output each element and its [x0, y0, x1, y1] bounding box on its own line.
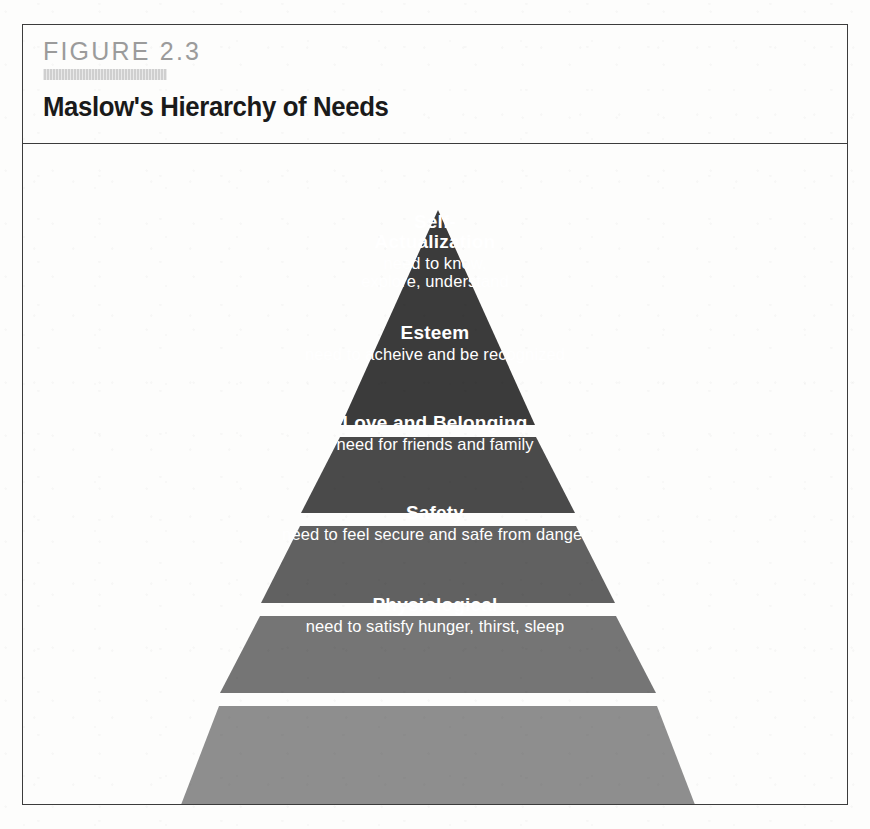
pyramid-tier-esteem — [301, 437, 575, 513]
figure-header: FIGURE 2.3 Maslow's Hierarchy of Needs — [23, 25, 847, 143]
pyramid-tier-love-and-belonging — [261, 526, 615, 603]
pyramid-chart: Self- Actualization need to know, explor… — [23, 144, 847, 804]
figure-frame: FIGURE 2.3 Maslow's Hierarchy of Needs — [22, 24, 848, 805]
figure-number-label: FIGURE 2.3 — [43, 37, 201, 66]
figure-page: FIGURE 2.3 Maslow's Hierarchy of Needs — [0, 0, 870, 829]
pyramid-diagram — [23, 144, 849, 804]
pyramid-tier-physiological — [179, 706, 697, 804]
figure-accent-swatch — [43, 69, 167, 80]
pyramid-tier-self-actualization — [341, 210, 535, 425]
pyramid-tier-safety — [220, 616, 656, 693]
figure-title: Maslow's Hierarchy of Needs — [43, 91, 389, 123]
